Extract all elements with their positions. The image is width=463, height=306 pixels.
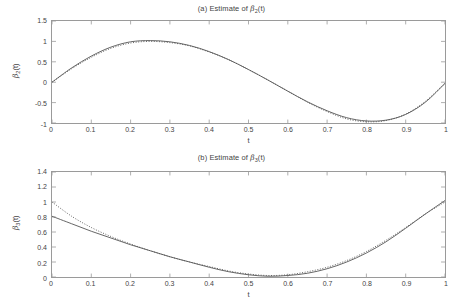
x-tick-label: 1: [444, 280, 448, 287]
panel-b-x-axis-label: t: [51, 290, 446, 299]
y-tick-label: 1.5: [37, 17, 47, 24]
y-tick-label: 1.4: [37, 168, 47, 175]
panel-b-title-suffix: (t): [258, 153, 265, 162]
panel-b: (b) Estimate of β3(t) β3(t) 1.41.210.80.…: [0, 150, 463, 306]
y-tick-label: 0: [43, 275, 47, 282]
panel-a-x-axis-label: t: [51, 136, 446, 145]
x-tick-label: 0.8: [362, 126, 372, 133]
panel-b-curves: [52, 172, 445, 277]
x-tick-label: 0.4: [204, 126, 214, 133]
y-tick-label: 0.6: [37, 229, 47, 236]
y-tick-label: 0.4: [37, 244, 47, 251]
curve-estimate: [52, 41, 445, 122]
panel-b-plot-area: [51, 171, 446, 278]
panel-a-title-suffix: (t): [258, 4, 265, 13]
panel-b-title-prefix: (b) Estimate of: [198, 153, 250, 162]
x-tick-label: 0.9: [402, 280, 412, 287]
y-tick-label: 1: [43, 198, 47, 205]
x-tick-label: 0.6: [283, 280, 293, 287]
x-tick-label: 0.7: [323, 280, 333, 287]
x-tick-label: 0.7: [323, 126, 333, 133]
panel-a-y-tick-labels: 1.510.50-0.5-1: [3, 20, 47, 124]
x-tick-label: 0.5: [244, 280, 254, 287]
x-tick-label: 0.9: [402, 126, 412, 133]
y-tick-label: 0.2: [37, 259, 47, 266]
x-tick-label: 0.3: [165, 280, 175, 287]
x-tick-label: 0.2: [125, 126, 135, 133]
x-tick-label: 0.5: [244, 126, 254, 133]
x-tick-label: 0.4: [204, 280, 214, 287]
x-tick-label: 0.6: [283, 126, 293, 133]
curve-true: [52, 41, 445, 121]
x-tick-label: 0.8: [362, 280, 372, 287]
y-tick-label: -0.5: [35, 100, 47, 107]
x-tick-label: 0: [49, 280, 53, 287]
curve-true: [52, 202, 445, 276]
panel-b-y-tick-labels: 1.41.210.80.60.40.20: [3, 171, 47, 278]
panel-a-title-prefix: (a) Estimate of: [198, 4, 250, 13]
x-tick-label: 0.2: [125, 280, 135, 287]
y-tick-label: 0: [43, 79, 47, 86]
panel-a-curves: [52, 21, 445, 123]
x-tick-label: 0.1: [86, 126, 96, 133]
panel-a: (a) Estimate of β2(t) β2(t) 1.510.50-0.5…: [0, 0, 463, 150]
y-tick-label: 1.2: [37, 183, 47, 190]
panel-b-title: (b) Estimate of β3(t): [0, 153, 463, 163]
panel-a-plot-area: [51, 20, 446, 124]
figure-canvas: (a) Estimate of β2(t) β2(t) 1.510.50-0.5…: [0, 0, 463, 306]
x-tick-label: 0: [49, 126, 53, 133]
y-tick-label: 1: [43, 37, 47, 44]
panel-a-title: (a) Estimate of β2(t): [0, 4, 463, 14]
y-tick-label: 0.5: [37, 58, 47, 65]
y-tick-label: -1: [41, 121, 47, 128]
x-tick-label: 0.1: [86, 280, 96, 287]
y-tick-label: 0.8: [37, 213, 47, 220]
curve-estimate: [52, 200, 445, 276]
x-tick-label: 0.3: [165, 126, 175, 133]
x-tick-label: 1: [444, 126, 448, 133]
